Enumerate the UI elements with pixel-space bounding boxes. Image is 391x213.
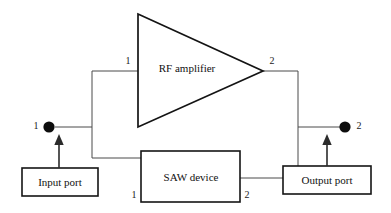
input-port-label: Input port [38, 176, 82, 188]
block-input-port[interactable]: Input port [22, 168, 98, 196]
block-saw-device[interactable]: SAW device [141, 151, 240, 202]
diagram-canvas: RF amplifier 1 2 SAW device 1 2 Input po… [0, 0, 391, 213]
diagram-svg: RF amplifier 1 2 SAW device 1 2 Input po… [0, 0, 391, 213]
input-terminal-number: 1 [34, 120, 39, 131]
input-arrow-head [54, 134, 63, 145]
rf-amplifier-input-port-number: 1 [126, 55, 131, 66]
rf-amplifier-label: RF amplifier [159, 62, 216, 74]
arrow-up-icon-input [54, 134, 63, 168]
rf-amplifier-output-port-number: 2 [270, 55, 275, 66]
output-terminal-node-icon[interactable] [339, 121, 350, 132]
output-port-label: Output port [301, 174, 352, 186]
block-output-port[interactable]: Output port [283, 166, 371, 194]
input-terminal-node-icon[interactable] [43, 121, 54, 132]
saw-device-output-port-number: 2 [245, 189, 250, 200]
saw-device-input-port-number: 1 [132, 189, 137, 200]
output-terminal-number: 2 [357, 120, 362, 131]
output-arrow-head [322, 134, 331, 145]
block-rf-amplifier[interactable]: RF amplifier [138, 14, 263, 127]
arrow-up-icon-output [322, 134, 331, 166]
saw-device-label: SAW device [164, 171, 219, 183]
